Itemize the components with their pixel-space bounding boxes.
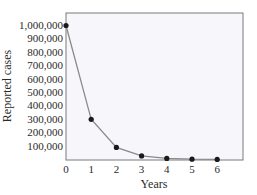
x-tick-label: 0 (63, 163, 69, 175)
data-point (164, 156, 169, 161)
x-tick-label: 3 (139, 163, 145, 175)
x-tick-label: 2 (114, 163, 120, 175)
data-point (215, 157, 220, 162)
x-axis-label: Years (141, 177, 168, 191)
data-point (189, 157, 194, 162)
y-tick-label: 800,000 (27, 46, 63, 58)
plot-area (66, 13, 243, 160)
y-tick-label: 100,000 (27, 140, 63, 152)
line-chart: 100,000200,000300,000400,000500,000600,0… (0, 0, 257, 195)
data-point (89, 117, 94, 122)
data-point (114, 145, 119, 150)
y-axis-label: Reported cases (0, 50, 14, 123)
y-tick-label: 500,000 (27, 86, 63, 98)
x-axis-ticks: 0123456 (63, 163, 220, 175)
y-tick-label: 900,000 (27, 32, 63, 44)
y-tick-label: 700,000 (27, 59, 63, 71)
x-tick-label: 4 (164, 163, 170, 175)
y-tick-label: 1,000,000 (19, 19, 64, 31)
y-axis-ticks: 100,000200,000300,000400,000500,000600,0… (19, 19, 64, 152)
x-tick-label: 5 (189, 163, 195, 175)
data-point (139, 153, 144, 158)
y-tick-label: 300,000 (27, 113, 63, 125)
x-tick-label: 6 (214, 163, 220, 175)
y-tick-label: 600,000 (27, 73, 63, 85)
y-tick-label: 200,000 (27, 126, 63, 138)
x-tick-label: 1 (88, 163, 94, 175)
y-tick-label: 400,000 (27, 99, 63, 111)
data-point (63, 23, 68, 28)
